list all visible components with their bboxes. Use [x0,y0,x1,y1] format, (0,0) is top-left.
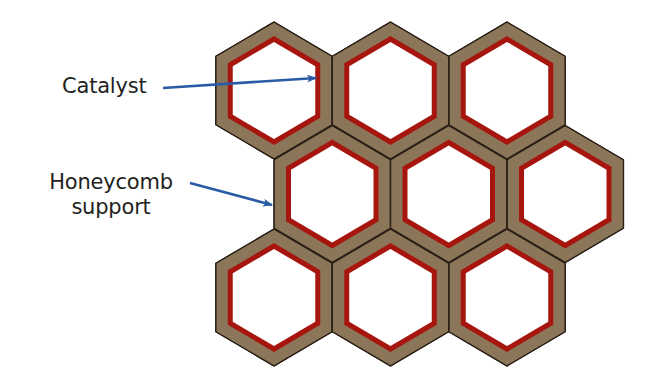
honeycomb-support-arrow [190,183,272,205]
honeycomb-support-label: Honeycomb support [38,170,184,220]
honeycomb-label-line2: support [38,195,184,220]
catalyst-label: Catalyst [62,74,146,99]
honeycomb-label-line1: Honeycomb [38,170,184,195]
honeycomb-cells [216,22,624,366]
